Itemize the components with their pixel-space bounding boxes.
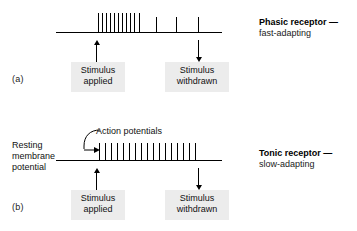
panel-phasic: (a) Stimulus applied Stimulus withdrawn [0,0,357,115]
tonic-receptor-subtitle: slow-adapting [259,159,332,170]
stimulus-withdrawn-arrow-a [196,40,202,62]
stimulus-applied-line2: applied [77,76,119,87]
spike [102,13,103,32]
spike [111,143,112,160]
stimulus-withdrawn-line2: withdrawn [171,76,223,87]
tonic-baseline [56,160,222,161]
spike [130,13,131,32]
spike [135,143,136,160]
stimulus-withdrawn-box-a: Stimulus withdrawn [165,62,229,92]
stimulus-withdrawn-line1: Stimulus [171,193,223,204]
resting-line2: membrane [12,151,55,162]
action-potentials-pointer-arrow [78,128,104,154]
spike [171,143,172,160]
phasic-receptor-title: Phasic receptor — [259,17,338,28]
stimulus-applied-arrow-a [94,40,100,62]
spike [117,143,118,160]
spike [141,143,142,160]
stimulus-applied-box-a: Stimulus applied [71,62,125,92]
spike [156,17,157,32]
stimulus-withdrawn-line2: withdrawn [171,204,223,215]
spike [98,13,99,32]
panel-tonic: (b) Resting membrane potential Action po… [0,115,357,231]
spike [118,13,119,32]
spike [176,17,177,32]
resting-membrane-potential-label: Resting membrane potential [12,140,55,173]
stimulus-withdrawn-arrow-b [196,168,202,190]
spike [122,13,123,32]
phasic-receptor-label: Phasic receptor — fast-adapting [259,17,338,40]
spike [165,143,166,160]
spike [189,143,190,160]
stimulus-withdrawn-box-b: Stimulus withdrawn [165,190,229,220]
spike [183,143,184,160]
spike [99,143,100,160]
tonic-receptor-title: Tonic receptor — [259,148,332,159]
spike [153,143,154,160]
panel-label-a: (a) [12,74,24,84]
stimulus-applied-box-b: Stimulus applied [71,190,125,220]
spike [177,143,178,160]
spike [123,143,124,160]
spike [159,143,160,160]
spike [110,13,111,32]
spike [195,143,196,160]
spike [126,13,127,32]
stimulus-applied-line2: applied [77,204,119,215]
phasic-receptor-subtitle: fast-adapting [259,28,338,39]
spike [147,143,148,160]
spike [106,13,107,32]
spike [139,13,140,32]
resting-line3: potential [12,162,55,173]
stimulus-withdrawn-line1: Stimulus [171,65,223,76]
stimulus-applied-line1: Stimulus [77,65,119,76]
spike [198,17,199,32]
resting-line1: Resting [12,140,55,151]
spike [134,13,135,32]
spike [114,13,115,32]
phasic-baseline [56,32,222,33]
panel-label-b: (b) [12,202,24,212]
tonic-receptor-label: Tonic receptor — slow-adapting [259,148,332,171]
spike [129,143,130,160]
stimulus-applied-arrow-b [94,168,100,190]
action-potentials-label: Action potentials [96,126,162,136]
stimulus-applied-line1: Stimulus [77,193,119,204]
spike [105,143,106,160]
